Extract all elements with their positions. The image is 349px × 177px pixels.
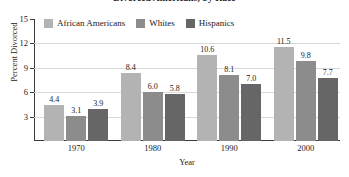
gridline (34, 43, 340, 44)
bar: 8.1 (219, 75, 239, 141)
legend-item: Whites (136, 18, 175, 28)
bar-value-label: 3.9 (93, 99, 103, 108)
gridline (34, 68, 340, 69)
bar-value-label: 6.0 (148, 82, 158, 91)
legend-label: African Americans (57, 18, 125, 28)
bar-value-label: 7.0 (246, 74, 256, 83)
bar: 11.5 (274, 47, 294, 141)
legend: African AmericansWhitesHispanics (44, 18, 234, 28)
y-tick-label: 15 (20, 14, 29, 24)
bar-value-label: 9.8 (301, 51, 311, 60)
legend-label: Hispanics (199, 18, 235, 28)
bar: 5.8 (165, 94, 185, 141)
y-tick-label: 3 (24, 112, 28, 122)
bar: 7.0 (241, 84, 261, 141)
y-tick-mark (30, 92, 34, 93)
bar: 10.6 (197, 55, 217, 141)
bar: 3.1 (66, 116, 86, 141)
y-tick-label: 6 (24, 87, 28, 97)
bar-value-label: 7.7 (323, 68, 333, 77)
y-tick-mark (30, 117, 34, 118)
legend-label: Whites (149, 18, 175, 28)
y-tick-mark (30, 68, 34, 69)
bar: 7.7 (318, 78, 338, 141)
bar: 3.9 (88, 109, 108, 141)
legend-item: Hispanics (186, 18, 235, 28)
bar-value-label: 4.4 (49, 95, 59, 104)
y-tick-mark (30, 19, 34, 20)
x-axis-label: Year (34, 157, 340, 167)
y-tick-mark (30, 43, 34, 44)
legend-swatch-icon (186, 19, 195, 28)
y-axis-label: Percent Divorced (9, 12, 19, 92)
bar-chart: Divorced Americans, by Race Percent Divo… (0, 0, 349, 177)
bar-value-label: 8.4 (126, 63, 136, 72)
bar: 6.0 (143, 92, 163, 141)
gridline (34, 92, 340, 93)
legend-swatch-icon (136, 19, 145, 28)
legend-item: African Americans (44, 18, 125, 28)
x-tick-label: 1970 (68, 143, 85, 153)
y-tick-label: 9 (24, 63, 28, 73)
bar: 9.8 (296, 61, 316, 141)
bar-value-label: 11.5 (277, 37, 291, 46)
y-axis-line (34, 19, 35, 141)
x-tick-label: 1990 (221, 143, 238, 153)
bar-value-label: 10.6 (200, 45, 214, 54)
y-tick-label: 12 (20, 38, 29, 48)
bar: 8.4 (121, 73, 141, 141)
bar: 4.4 (44, 105, 64, 141)
plot-area: 3691215 4.43.13.98.46.05.810.68.17.011.5… (34, 19, 340, 141)
legend-swatch-icon (44, 19, 53, 28)
bar-value-label: 8.1 (224, 65, 234, 74)
x-tick-label: 2000 (297, 143, 314, 153)
bar-value-label: 5.8 (170, 84, 180, 93)
chart-title: Divorced Americans, by Race (0, 0, 349, 4)
x-tick-label: 1980 (144, 143, 161, 153)
bar-value-label: 3.1 (71, 106, 81, 115)
